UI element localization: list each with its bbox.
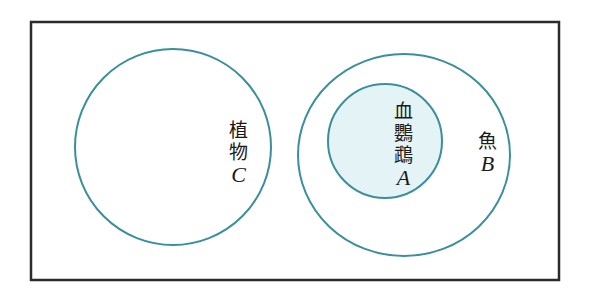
- set-b-letter: B: [481, 152, 494, 176]
- set-b-name: 魚: [478, 130, 497, 152]
- set-a-name-3: 鵡: [394, 144, 413, 166]
- set-c-name-1: 植: [229, 119, 248, 141]
- set-c-name-2: 物: [229, 141, 248, 163]
- set-a-name-2: 鸚: [394, 122, 413, 144]
- set-a-name-1: 血: [394, 100, 413, 122]
- venn-diagram-canvas: [0, 0, 589, 297]
- set-c-letter: C: [231, 163, 246, 187]
- set-c-label: 植 物 C: [229, 119, 248, 187]
- set-b-label: 魚 B: [478, 130, 497, 176]
- set-a-label: 血 鸚 鵡 A: [394, 100, 413, 190]
- set-a-letter: A: [397, 166, 410, 190]
- set-a-circle: [328, 84, 442, 198]
